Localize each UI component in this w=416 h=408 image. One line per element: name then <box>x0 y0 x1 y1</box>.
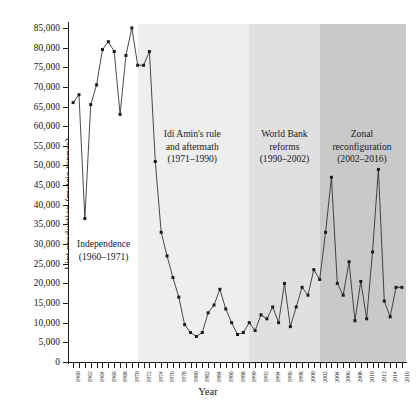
x-tick <box>320 362 321 368</box>
x-tick-label: 1964 <box>99 371 105 383</box>
x-tick <box>296 362 297 368</box>
x-tick-label: 2014 <box>392 371 398 383</box>
x-tick <box>284 362 285 368</box>
data-point <box>301 286 304 289</box>
data-point <box>201 331 204 334</box>
data-point <box>124 54 127 57</box>
data-point <box>395 286 398 289</box>
data-point <box>160 231 163 234</box>
data-point <box>101 48 104 51</box>
y-tick-label: 55,000 <box>34 141 60 151</box>
x-tick-label: 1966 <box>111 371 117 383</box>
x-tick <box>108 362 109 368</box>
data-point <box>383 300 386 303</box>
data-point <box>389 315 392 318</box>
x-tick <box>249 362 250 368</box>
data-point <box>365 317 368 320</box>
x-tick-label: 1968 <box>122 371 128 383</box>
data-point <box>195 335 198 338</box>
data-point <box>353 319 356 322</box>
data-point <box>324 231 327 234</box>
x-tick-label: 2006 <box>345 371 351 383</box>
x-tick <box>255 362 256 368</box>
x-tick-label: 1986 <box>228 371 234 383</box>
data-point <box>289 325 292 328</box>
data-point <box>171 276 174 279</box>
x-tick-label: 2000 <box>310 371 316 383</box>
series-line <box>73 28 402 337</box>
data-point <box>400 286 403 289</box>
x-tick <box>243 362 244 368</box>
data-point <box>95 83 98 86</box>
y-tick-label: 45,000 <box>34 180 60 190</box>
data-point <box>77 93 80 96</box>
x-tick <box>220 362 221 368</box>
data-point <box>72 101 75 104</box>
x-tick <box>120 362 121 368</box>
plot-area: Independence (1960–1971)Idi Amin's rule … <box>69 24 406 362</box>
x-tick-label: 2002 <box>322 371 328 383</box>
x-tick-label: 1990 <box>251 371 257 383</box>
data-point <box>119 113 122 116</box>
data-point <box>207 311 210 314</box>
data-point <box>177 296 180 299</box>
x-tick-label: 2008 <box>357 371 363 383</box>
x-tick <box>126 362 127 368</box>
data-point <box>336 282 339 285</box>
x-tick <box>114 362 115 368</box>
data-point <box>130 26 133 29</box>
x-tick <box>337 362 338 368</box>
x-tick <box>308 362 309 368</box>
y-tick-label: 0 <box>55 357 60 367</box>
data-point <box>348 260 351 263</box>
x-tick-label: 1960 <box>75 371 81 383</box>
x-tick <box>155 362 156 368</box>
x-tick <box>279 362 280 368</box>
y-tick-label: 35,000 <box>34 219 60 229</box>
x-tick <box>232 362 233 368</box>
x-tick <box>73 362 74 368</box>
x-tick-label: 1992 <box>263 371 269 383</box>
x-tick <box>238 362 239 368</box>
data-point <box>283 282 286 285</box>
y-tick-label: 5,000 <box>39 337 60 347</box>
data-point <box>359 280 362 283</box>
x-tick-label: 1972 <box>146 371 152 383</box>
x-tick-label: 1978 <box>181 371 187 383</box>
period-label-4: Zonal reconfiguration (2002–2016) <box>292 128 416 166</box>
data-point <box>236 333 239 336</box>
data-point <box>89 103 92 106</box>
y-tick-label: 70,000 <box>34 82 60 92</box>
y-tick-label: 85,000 <box>34 23 60 33</box>
data-point <box>213 304 216 307</box>
data-point <box>183 323 186 326</box>
x-tick <box>173 362 174 368</box>
x-tick <box>214 362 215 368</box>
y-tick-label: 60,000 <box>34 121 60 131</box>
x-tick <box>361 362 362 368</box>
x-tick <box>179 362 180 368</box>
x-tick <box>349 362 350 368</box>
x-tick <box>196 362 197 368</box>
x-tick <box>314 362 315 368</box>
x-tick <box>267 362 268 368</box>
x-tick <box>161 362 162 368</box>
x-tick <box>384 362 385 368</box>
y-axis-labels: 05,00010,00015,00020,00025,00030,00035,0… <box>0 0 68 408</box>
data-point <box>265 317 268 320</box>
y-tick-label: 20,000 <box>34 278 60 288</box>
x-tick <box>167 362 168 368</box>
y-tick-label: 80,000 <box>34 43 60 53</box>
data-point <box>259 313 262 316</box>
x-tick-label: 1970 <box>134 371 140 383</box>
data-point <box>224 307 227 310</box>
x-tick <box>202 362 203 368</box>
x-tick <box>261 362 262 368</box>
data-point <box>142 64 145 67</box>
data-point <box>113 50 116 53</box>
x-tick <box>326 362 327 368</box>
period-label-1: Independence (1960–1971) <box>34 238 174 263</box>
x-tick <box>302 362 303 368</box>
data-point <box>342 294 345 297</box>
y-tick-label: 15,000 <box>34 298 60 308</box>
